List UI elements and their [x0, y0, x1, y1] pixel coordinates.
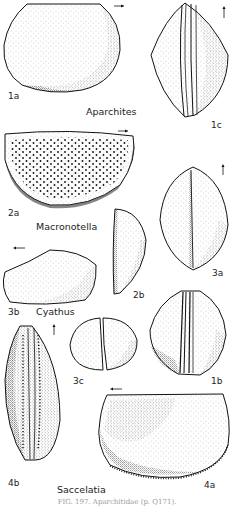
panel-label-4a: 4a	[204, 480, 215, 490]
figure-2b	[113, 209, 146, 294]
figure-3a	[160, 164, 228, 270]
panel-label-3b: 3b	[8, 307, 19, 317]
figure-1a	[4, 4, 124, 92]
panel-label-1c: 1c	[211, 120, 222, 130]
genus-label-saccelatia: Saccelatia	[57, 484, 106, 495]
fossil-plate	[0, 0, 234, 508]
figure-1b	[150, 291, 226, 375]
genus-label-aparchites: Aparchites	[86, 106, 136, 117]
figure-3c	[70, 318, 137, 370]
panel-label-4b: 4b	[8, 478, 19, 488]
genus-label-cyathus: Cyathus	[36, 306, 75, 317]
figure-4a	[99, 388, 229, 479]
panel-label-1b: 1b	[211, 376, 222, 386]
panel-label-3c: 3c	[73, 376, 84, 386]
panel-label-2a: 2a	[8, 208, 19, 218]
genus-label-macronotella: Macronotella	[36, 221, 97, 232]
figure-1c	[151, 3, 228, 117]
panel-label-2b: 2b	[133, 290, 144, 300]
figure-3b	[3, 247, 96, 305]
panel-label-1a: 1a	[8, 91, 19, 101]
panel-label-3a: 3a	[212, 268, 223, 278]
figure-2a	[5, 130, 134, 209]
figure-4b	[5, 324, 60, 460]
figure-caption: FIG. 197. Aparchitidae (p. Q171).	[0, 497, 234, 507]
